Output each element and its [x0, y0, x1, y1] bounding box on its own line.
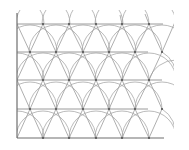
arc: [149, 60, 176, 80]
lattice-vertex: [55, 108, 57, 110]
diagonal-line: [149, 24, 162, 52]
arc: [82, 25, 136, 52]
lattice-vertex: [134, 108, 136, 110]
diagonal-line: [109, 52, 122, 80]
lattice-diagram: [0, 0, 189, 150]
diagonal-line: [43, 109, 56, 138]
arc: [16, 0, 70, 24]
diagonal-line: [17, 80, 30, 109]
diagonal-line: [122, 52, 135, 80]
arc: [0, 0, 44, 24]
lattice-vertex: [121, 137, 123, 139]
diagonal-line: [17, 52, 30, 80]
lattice-vertex: [68, 137, 70, 139]
diagonal-line: [122, 80, 135, 109]
diagonal-line: [30, 109, 43, 138]
arc: [16, 53, 70, 80]
diagonal-line: [109, 24, 122, 52]
arc: [0, 111, 44, 138]
lattice-vertex: [55, 51, 57, 53]
diagonal-line: [109, 109, 122, 138]
diagonal-line: [69, 109, 83, 138]
circle-arcs: [0, 0, 189, 138]
lattice-vertex: [108, 108, 110, 110]
diagonal-line: [69, 24, 83, 52]
diagonal-line: [17, 109, 30, 138]
diagonal-line: [17, 24, 30, 52]
lattice-vertex: [68, 79, 70, 81]
diagonal-line: [56, 24, 69, 52]
arc: [82, 82, 136, 109]
lattice-vertex: [148, 79, 150, 81]
diagonal-line: [135, 24, 149, 52]
diagonal-line: [109, 80, 122, 109]
diagonal-line: [162, 22, 175, 52]
arc: [16, 111, 70, 138]
lattice-vertex: [68, 23, 70, 25]
diagonal-line: [30, 52, 43, 80]
diagonal-line: [83, 80, 96, 109]
diagonal-line: [96, 80, 109, 109]
diagonal-line: [149, 109, 162, 138]
lattice-vertex: [148, 137, 150, 139]
lattice-vertex: [82, 51, 84, 53]
arc: [162, 52, 176, 80]
lattice-vertex: [134, 51, 136, 53]
lattice-vertex: [95, 79, 97, 81]
lattice-vertex: [29, 108, 31, 110]
diagonal-line: [56, 52, 69, 80]
diagonal-line: [56, 80, 69, 109]
lattice-vertex: [108, 51, 110, 53]
lattice-vertex: [82, 108, 84, 110]
diagonal-line: [30, 24, 43, 52]
lattice-vertex: [121, 79, 123, 81]
diagonal-line: [135, 52, 149, 80]
lattice-vertex: [29, 51, 31, 53]
diagonal-line: [96, 24, 109, 52]
diagonal-line: [69, 52, 83, 80]
lattice-vertex: [161, 51, 163, 53]
lattice-vertex: [42, 23, 44, 25]
lattice-vertex: [95, 23, 97, 25]
diagonal-line: [43, 24, 56, 52]
arc: [3, 82, 57, 109]
lattice-vertex: [95, 137, 97, 139]
diagonal-line: [135, 109, 149, 138]
diagonal-line: [30, 80, 43, 109]
lattice-vertex: [148, 23, 150, 25]
arc: [162, 109, 175, 138]
diagonal-line: [83, 109, 96, 138]
diagonal-line: [122, 24, 135, 52]
lattice-vertex: [42, 79, 44, 81]
diagonal-line: [135, 80, 149, 109]
diagonal-line: [83, 52, 96, 80]
diagonal-line: [96, 109, 109, 138]
diagonal-line: [43, 80, 56, 109]
lattice-vertex: [161, 108, 163, 110]
diagonal-line: [69, 80, 83, 109]
diagonal-line: [149, 52, 162, 80]
arc: [3, 25, 57, 52]
diagonal-line: [43, 52, 56, 80]
lattice-vertex: [42, 137, 44, 139]
diagonal-line: [149, 80, 162, 109]
diagonal-line: [96, 52, 109, 80]
diagonal-line: [56, 109, 69, 138]
arc: [0, 53, 44, 80]
lattice-vertex: [121, 23, 123, 25]
diagonal-line: [83, 24, 96, 52]
lattice-vertices: [29, 23, 163, 139]
diagonal-line: [122, 109, 135, 138]
